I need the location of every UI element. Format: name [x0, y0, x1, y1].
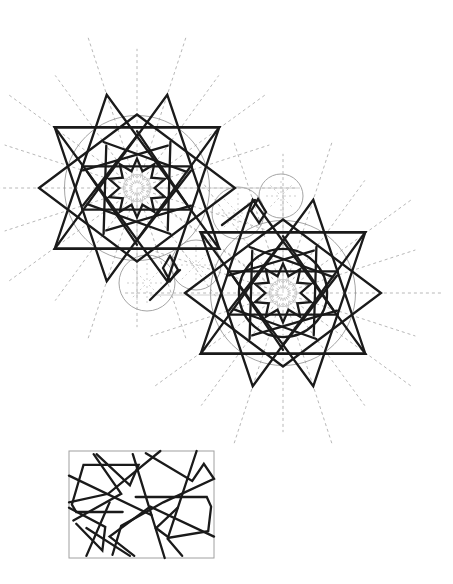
- secondary-ray: [269, 198, 279, 208]
- repeat-tile: [69, 451, 214, 558]
- construction-ray: [234, 298, 282, 444]
- secondary-ray: [149, 285, 163, 299]
- tile-strap: [168, 451, 197, 556]
- secondary-ray: [131, 285, 145, 299]
- secondary-ray: [283, 184, 293, 194]
- secondary-ray: [223, 198, 236, 211]
- inner-strap: [104, 146, 107, 234]
- construction-ray: [88, 193, 136, 339]
- tile-strap: [69, 451, 160, 502]
- secondary-ray: [182, 267, 194, 279]
- inner-strap: [168, 142, 171, 230]
- construction-rays: [0, 37, 442, 444]
- construction-diagram: [0, 0, 453, 584]
- secondary-ray: [131, 267, 145, 281]
- construction-ray: [139, 37, 187, 183]
- link-strap: [222, 200, 255, 225]
- secondary-ray: [283, 198, 293, 208]
- secondary-ray: [269, 184, 279, 194]
- tile-strap: [69, 476, 152, 516]
